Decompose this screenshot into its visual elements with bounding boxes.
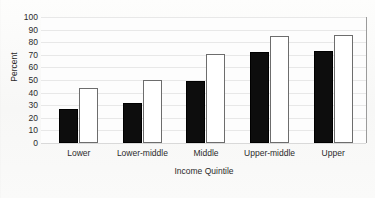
- x-tick-label-upper: Upper: [301, 148, 365, 158]
- plot-wrapper: [41, 17, 367, 143]
- x-tick-label-upper-middle: Upper-middle: [238, 148, 302, 158]
- y-tick-label-30: 30: [29, 100, 38, 110]
- x-tick-label-lower: Lower: [47, 148, 111, 158]
- y-tick-label-40: 40: [29, 88, 38, 98]
- bar-group-upper-middle: [238, 17, 302, 143]
- bar-group-middle: [174, 17, 238, 143]
- y-tick-label-100: 100: [24, 12, 38, 22]
- y-tick-label-10: 10: [29, 125, 38, 135]
- y-tick-label-0: 0: [33, 138, 38, 148]
- x-tick-label-lower-middle: Lower-middle: [111, 148, 175, 158]
- bar-group-lower-middle: [111, 17, 175, 143]
- chart-page: Percent 1009080706050403020100 LowerLowe…: [0, 0, 375, 198]
- y-axis-tick-labels: 1009080706050403020100: [14, 17, 38, 143]
- y-tick-label-90: 90: [29, 25, 38, 35]
- y-tick-label-70: 70: [29, 50, 38, 60]
- bar-middle-series-a[interactable]: [186, 81, 205, 143]
- y-tick-label-60: 60: [29, 62, 38, 72]
- bar-middle-series-b[interactable]: [206, 54, 225, 143]
- x-axis-title: Income Quintile: [41, 166, 367, 176]
- gridline-0: [41, 143, 366, 144]
- bars-layer: [41, 17, 367, 143]
- y-tick-label-80: 80: [29, 37, 38, 47]
- bar-upper-series-a[interactable]: [314, 51, 333, 143]
- bar-upper-middle-series-a[interactable]: [250, 52, 269, 143]
- bar-lower-middle-series-a[interactable]: [123, 103, 142, 143]
- chart-title: [0, 0, 375, 2]
- bar-lower-series-b[interactable]: [79, 88, 98, 143]
- bar-group-upper: [301, 17, 365, 143]
- x-axis-tick-labels: LowerLower-middleMiddleUpper-middleUpper: [41, 148, 367, 158]
- bar-lower-middle-series-b[interactable]: [143, 80, 162, 143]
- y-tick-label-20: 20: [29, 113, 38, 123]
- bar-upper-series-b[interactable]: [334, 35, 353, 143]
- bar-lower-series-a[interactable]: [59, 109, 78, 143]
- bar-group-lower: [47, 17, 111, 143]
- bar-upper-middle-series-b[interactable]: [270, 36, 289, 143]
- y-tick-label-50: 50: [29, 75, 38, 85]
- x-tick-label-middle: Middle: [174, 148, 238, 158]
